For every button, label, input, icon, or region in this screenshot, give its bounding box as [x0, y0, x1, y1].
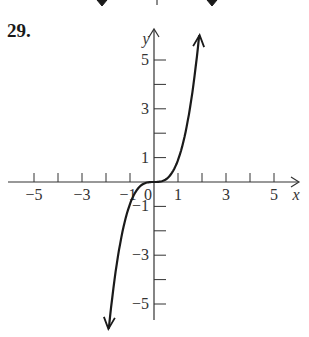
y-tick-label: −1	[132, 197, 149, 214]
axes	[8, 29, 299, 320]
x-tick-label: 3	[222, 186, 230, 203]
y-tick-label: 3	[141, 100, 149, 117]
y-tick-label: 5	[141, 51, 149, 68]
tick-labels: −5−3−10135531−1−3−5xy	[25, 30, 299, 312]
previous-figure-fragment	[97, 0, 217, 6]
x-axis-label: x	[291, 186, 299, 203]
x-tick-label: −5	[25, 186, 42, 203]
y-tick-label: 1	[141, 149, 149, 166]
y-axis-label: y	[140, 30, 150, 48]
y-tick-label: −5	[132, 295, 149, 312]
y-tick-label: −3	[132, 246, 149, 263]
chart: −5−3−10135531−1−3−5xy	[0, 0, 309, 337]
x-tick-label: 1	[174, 186, 182, 203]
x-tick-label: 5	[270, 186, 278, 203]
x-tick-label: −3	[73, 186, 90, 203]
